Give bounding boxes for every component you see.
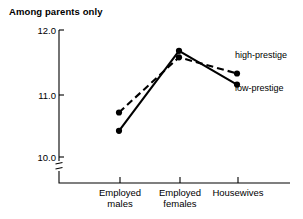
- axis-break-icon: [56, 163, 63, 170]
- series-line-low-prestige: [119, 51, 237, 131]
- data-point-low-prestige-employed-males: [116, 128, 122, 134]
- x-axis-label-employed-males-line2: males: [88, 199, 152, 210]
- x-axis-spine: [59, 171, 290, 183]
- x-axis-label-employed-females-line1: Employed: [148, 188, 212, 199]
- data-point-high-prestige-housewives: [234, 70, 240, 76]
- x-axis-label-employed-males: Employed males: [88, 188, 152, 209]
- data-point-high-prestige-employed-males: [116, 109, 122, 115]
- series-label-high-prestige: high-prestige: [235, 50, 287, 60]
- data-point-high-prestige-employed-females: [176, 54, 182, 60]
- x-axis-label-employed-males-line1: Employed: [88, 188, 152, 199]
- chart-figure: Among parents only 12.0 11.0 10.0 high-p…: [0, 0, 303, 219]
- x-axis-label-employed-females: Employed females: [148, 188, 212, 209]
- x-axis-label-employed-females-line2: females: [148, 199, 212, 210]
- x-axis-label-housewives-line1: Housewives: [204, 188, 272, 199]
- series-label-low-prestige: low-prestige: [235, 83, 284, 93]
- data-point-low-prestige-employed-females: [176, 48, 182, 54]
- series-line-high-prestige: [119, 57, 237, 112]
- x-axis-label-housewives: Housewives: [204, 188, 272, 199]
